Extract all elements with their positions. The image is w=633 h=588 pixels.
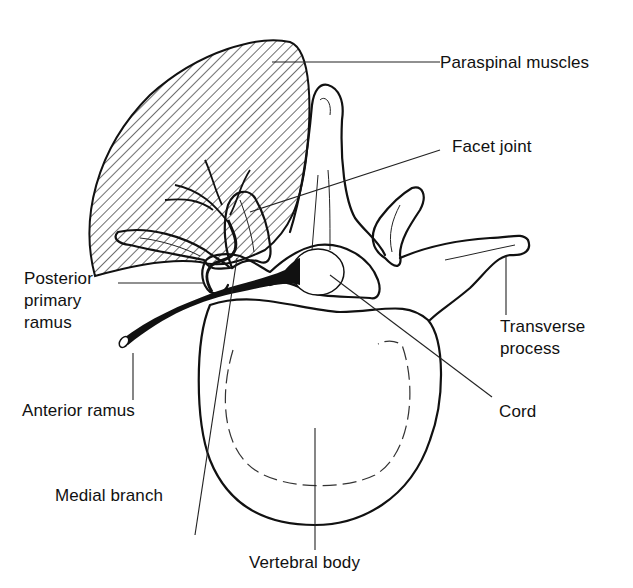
label-vertebral-body: Vertebral body — [249, 552, 360, 573]
paraspinal-muscles-shape — [90, 40, 310, 276]
label-facet-joint: Facet joint — [452, 136, 532, 157]
label-cord: Cord — [499, 401, 536, 422]
cord-leader — [330, 275, 492, 397]
label-posterior-primary-ramus: Posterior primary ramus — [24, 268, 93, 334]
label-anterior-ramus: Anterior ramus — [22, 400, 135, 421]
label-medial-branch: Medial branch — [55, 485, 163, 506]
vertebral-body-shape — [199, 299, 441, 525]
label-transverse-process: Transverse process — [500, 316, 585, 360]
label-paraspinal-muscles: Paraspinal muscles — [440, 52, 589, 73]
right-transverse-process — [400, 236, 529, 320]
right-facet — [373, 187, 424, 265]
